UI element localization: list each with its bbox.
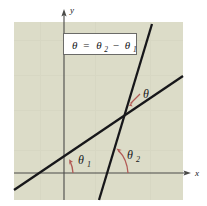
equation-subscript-2: 2 bbox=[104, 45, 108, 54]
theta-2-label-symbol: θ bbox=[127, 148, 133, 162]
x-axis-label: x bbox=[194, 168, 199, 178]
equation-minus: − bbox=[113, 39, 119, 51]
theta-label-symbol: θ bbox=[143, 87, 149, 101]
equation-theta-1: θ bbox=[125, 39, 131, 51]
theta-1-label-symbol: θ bbox=[78, 153, 84, 167]
equation-theta-2: θ bbox=[96, 39, 102, 51]
theta-2-label-subscript: 2 bbox=[136, 155, 140, 164]
equation-theta: θ bbox=[72, 39, 78, 51]
figure-container: y x θ = θ 2 − θ 1 bbox=[0, 0, 207, 206]
angle-figure-svg: y x θ = θ 2 − θ 1 bbox=[0, 0, 207, 206]
y-axis-label: y bbox=[69, 5, 74, 15]
theta-label: θ bbox=[143, 87, 149, 101]
equation-box: θ = θ 2 − θ 1 bbox=[64, 34, 137, 55]
theta-1-label-subscript: 1 bbox=[87, 160, 91, 169]
equation-subscript-1: 1 bbox=[133, 45, 137, 54]
equation-equals: = bbox=[83, 39, 89, 51]
